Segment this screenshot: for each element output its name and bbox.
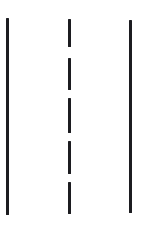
center-line-dash-segment xyxy=(68,98,71,133)
lane-lines-group xyxy=(0,0,153,231)
center-line-dash-segment xyxy=(68,58,71,90)
center-line-dash-segment xyxy=(68,141,71,174)
center-line-dash-segment xyxy=(68,19,71,47)
road-markings-diagram xyxy=(0,0,153,231)
center-line-dash-segment xyxy=(68,182,71,214)
right-solid-lane-line xyxy=(129,20,132,213)
